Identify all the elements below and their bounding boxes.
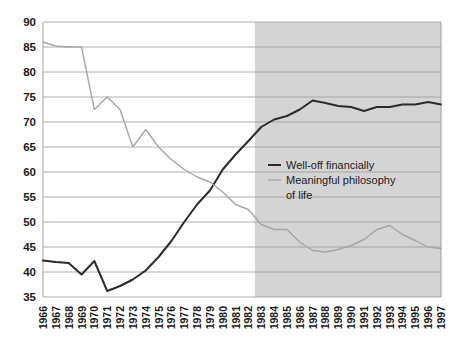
x-axis-tick-label: 1981 <box>230 306 242 330</box>
y-axis-tick-label: 50 <box>23 216 36 228</box>
y-axis-tick-label: 65 <box>23 141 36 153</box>
y-axis-tick-label: 45 <box>23 241 36 253</box>
legend-label-3: of life <box>286 189 312 201</box>
x-axis-tick-label: 1970 <box>88 306 100 330</box>
x-axis-tick-label: 1980 <box>217 306 229 330</box>
x-axis-tick-label: 1986 <box>294 306 306 330</box>
x-axis-tick-label: 1988 <box>319 306 331 330</box>
x-axis-tick-label: 1982 <box>242 306 254 330</box>
x-axis-tick-label: 1966 <box>37 306 49 330</box>
x-axis-tick-label: 1971 <box>101 306 113 330</box>
x-axis-tick-label: 1985 <box>281 306 293 330</box>
x-axis-tick-label: 1994 <box>396 306 408 330</box>
y-axis-tick-label: 80 <box>23 66 36 78</box>
x-axis-tick-label: 1967 <box>50 306 62 330</box>
x-axis-tick-label: 1993 <box>384 306 396 330</box>
x-axis-tick-label: 1977 <box>178 306 190 330</box>
x-axis-tick-label: 1978 <box>191 306 203 330</box>
x-axis-tick-label: 1991 <box>358 306 370 330</box>
x-axis-tick-label: 1975 <box>153 306 165 330</box>
y-axis-tick-label: 85 <box>23 41 36 53</box>
y-axis-tick-label: 75 <box>23 91 36 103</box>
x-axis-tick-label: 1996 <box>422 306 434 330</box>
x-axis-tick-label: 1995 <box>409 306 421 330</box>
legend-label-1: Well-off financially <box>286 159 375 171</box>
y-axis-tick-label: 35 <box>23 291 36 303</box>
x-axis-tick-label: 1976 <box>165 306 177 330</box>
x-axis-tick-label: 1969 <box>76 306 88 330</box>
x-axis-tick-label: 1974 <box>140 306 152 330</box>
chart-container: 3540455055606570758085901966196719681969… <box>0 0 462 356</box>
x-axis-tick-label: 1983 <box>255 306 267 330</box>
line-chart: 3540455055606570758085901966196719681969… <box>0 0 462 356</box>
y-axis-tick-label: 90 <box>23 16 36 28</box>
x-axis-tick-label: 1992 <box>371 306 383 330</box>
y-axis-tick-label: 70 <box>23 116 36 128</box>
x-axis-tick-label: 1997 <box>435 306 447 330</box>
legend-label-2: Meaningful philosophy <box>286 174 396 186</box>
y-axis-tick-label: 40 <box>23 266 36 278</box>
y-axis-tick-label: 55 <box>23 191 36 203</box>
x-axis-tick-label: 1968 <box>63 306 75 330</box>
x-axis-tick-label: 1990 <box>345 306 357 330</box>
x-axis-tick-label: 1973 <box>127 306 139 330</box>
x-axis-tick-label: 1984 <box>268 306 280 330</box>
x-axis-tick-label: 1987 <box>307 306 319 330</box>
x-axis-tick-label: 1989 <box>332 306 344 330</box>
x-axis-tick-label: 1972 <box>114 306 126 330</box>
x-axis-tick-label: 1979 <box>204 306 216 330</box>
y-axis-tick-label: 60 <box>23 166 36 178</box>
